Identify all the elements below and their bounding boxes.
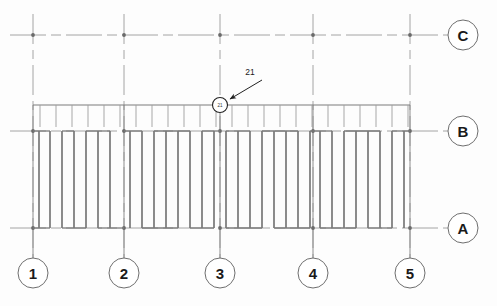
grid-bubble-label: 3: [216, 265, 224, 282]
grid-lines-vertical: [33, 14, 410, 258]
grid-bubble-label: B: [458, 123, 469, 140]
grid-bubbles: CBA12345: [18, 20, 478, 288]
grid-node: [218, 226, 222, 230]
grid-node: [218, 33, 222, 37]
grid-bubble-label: 5: [406, 265, 414, 282]
bay-cap-segments: [33, 131, 410, 228]
grid-bubble-a[interactable]: A: [448, 213, 478, 243]
drawing-sheet: 21 21 CBA12345: [0, 0, 497, 306]
grid-bubble-2[interactable]: 2: [109, 258, 139, 288]
callout-leader-line: [230, 80, 262, 99]
grid-bubble-label: C: [458, 27, 469, 44]
grid-node: [311, 226, 315, 230]
grid-bubble-b[interactable]: B: [448, 116, 478, 146]
framing-plan-drawing: 21 21 CBA12345: [0, 0, 497, 306]
grid-solid-segments: [33, 105, 410, 258]
grid-bubble-label: 2: [120, 265, 128, 282]
grid-bubble-3[interactable]: 3: [205, 258, 235, 288]
grid-bubble-c[interactable]: C: [448, 20, 478, 50]
grid-node: [408, 226, 412, 230]
grid-bubble-5[interactable]: 5: [395, 258, 425, 288]
grid-bubble-1[interactable]: 1: [18, 258, 48, 288]
grid-node: [408, 33, 412, 37]
grid-bubble-4[interactable]: 4: [298, 258, 328, 288]
grid-node: [31, 33, 35, 37]
callout-key-label: 21: [245, 67, 255, 77]
grid-node: [122, 33, 126, 37]
callout-bubble-text: 21: [217, 103, 223, 108]
grid-bubble-label: 1: [29, 265, 37, 282]
grid-bubble-label: 4: [309, 265, 318, 282]
grid-bubble-label: A: [458, 220, 469, 237]
grid-node: [311, 33, 315, 37]
joist-bars: [39, 131, 404, 228]
